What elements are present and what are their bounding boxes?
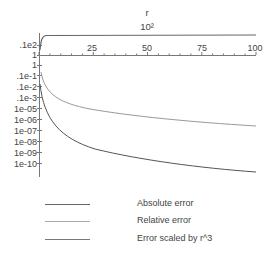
y-tick-label: 1e-09 xyxy=(14,148,37,158)
legend-item-absolute-error: Absolute error xyxy=(0,196,273,212)
legend-swatch xyxy=(45,239,90,240)
x-tick-label: 75 xyxy=(197,43,207,53)
y-tick-label: 1e-05 xyxy=(14,104,37,114)
x-axis-title: r xyxy=(145,7,148,18)
x-tick-label: 50 xyxy=(142,43,152,53)
legend-swatch xyxy=(45,204,90,205)
y-tick-label: 1e-07 xyxy=(14,126,37,136)
y-tick-label: .1e-3 xyxy=(16,93,37,103)
series-absolute-error-line xyxy=(40,84,256,172)
y-tick-label: .1e-1 xyxy=(16,71,37,81)
legend-swatch xyxy=(45,221,90,222)
legend-item-error-scaled: Error scaled by r^3 xyxy=(0,231,273,247)
x-tick-label: 25 xyxy=(87,43,97,53)
legend-item-relative-error: Relative error xyxy=(0,213,273,229)
legend-label: Absolute error xyxy=(137,198,194,208)
y-tick-label: 1e-10 xyxy=(14,159,37,169)
y-tick-label: 1e-08 xyxy=(14,137,37,147)
error-plot: r 10² 25 50 75 100 .1e2 1 1 .1e-1 .1e-2 … xyxy=(0,0,273,194)
y-tick-label: .1e2 xyxy=(19,40,37,50)
y-tick-label: 1 xyxy=(32,50,37,60)
series-relative-error-line xyxy=(41,72,256,126)
y-tick-label: .1e-2 xyxy=(16,82,37,92)
legend-label: Relative error xyxy=(137,215,191,225)
legend-label: Error scaled by r^3 xyxy=(137,233,212,243)
y-tick-label: 1e-06 xyxy=(14,115,37,125)
x-axis-scale-label: 10² xyxy=(140,21,154,32)
y-tick-label: 1 xyxy=(32,60,37,70)
x-tick-label: 100 xyxy=(247,43,262,53)
